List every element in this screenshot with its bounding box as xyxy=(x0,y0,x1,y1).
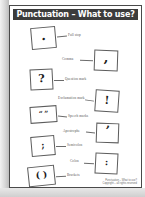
label-exclamation-mark: Exclamation mark xyxy=(58,96,85,100)
label-comma: Comma xyxy=(62,57,73,61)
leader-line-exclamation-mark xyxy=(85,99,94,101)
leader-line-full-stop xyxy=(57,35,67,37)
footer-line-2: Copyright – all rights reserved xyxy=(103,182,137,185)
symbol-box-speech-marks[interactable]: “ ” xyxy=(29,105,57,124)
symbol-glyph-speech-marks: “ ” xyxy=(39,110,48,118)
symbol-glyph-full-stop: . xyxy=(40,28,46,41)
leader-line-question-mark xyxy=(54,80,64,81)
leader-line-speech-marks xyxy=(58,116,67,118)
leader-line-apostrophe xyxy=(86,132,95,134)
leader-line-semicolon xyxy=(56,146,66,147)
page-title-banner: Punctuation – What to use? xyxy=(13,9,138,20)
symbol-glyph-apostrophe: ’ xyxy=(105,123,110,136)
symbol-glyph-colon: : xyxy=(105,158,109,167)
symbol-glyph-comma: , xyxy=(104,51,109,64)
symbol-box-question-mark[interactable]: ? xyxy=(29,68,53,90)
label-question-mark: Question mark xyxy=(65,77,86,81)
symbol-glyph-exclamation-mark: ! xyxy=(104,94,110,105)
symbol-glyph-question-mark: ? xyxy=(38,73,45,84)
page-title: Punctuation – What to use? xyxy=(16,10,134,19)
symbol-box-apostrophe[interactable]: ’ xyxy=(96,123,120,144)
symbol-box-semicolon[interactable]: ; xyxy=(30,135,56,157)
worksheet-page: Punctuation – What to use? . Full stop ,… xyxy=(9,5,142,188)
symbol-box-exclamation-mark[interactable]: ! xyxy=(94,89,119,113)
diagram-canvas: . Full stop , Comma ? Question mark ! Ex… xyxy=(10,22,142,182)
label-full-stop: Full stop xyxy=(68,33,81,37)
symbol-glyph-semicolon: ; xyxy=(41,140,45,149)
page-footer: Punctuation – What to use? Copyright – a… xyxy=(103,179,137,185)
label-semicolon: Semicolon xyxy=(67,143,82,147)
label-speech-marks: Speech marks xyxy=(68,114,88,118)
symbol-box-comma[interactable]: , xyxy=(94,50,119,72)
symbol-glyph-brackets: ( ) xyxy=(35,170,48,180)
label-brackets: Brackets xyxy=(67,173,80,177)
leader-line-colon xyxy=(84,163,94,165)
leader-line-brackets xyxy=(56,176,66,178)
screenshot-root: Punctuation – What to use? . Full stop ,… xyxy=(0,0,145,197)
page-gutter-left xyxy=(0,0,9,197)
page-gutter-bottom xyxy=(0,188,145,197)
symbol-box-full-stop[interactable]: . xyxy=(30,26,57,50)
symbol-box-colon[interactable]: : xyxy=(94,152,118,174)
label-apostrophe: Apostrophe xyxy=(63,129,80,133)
leader-line-comma xyxy=(80,60,93,61)
label-colon: Colon xyxy=(70,159,79,163)
symbol-box-brackets[interactable]: ( ) xyxy=(27,165,56,188)
